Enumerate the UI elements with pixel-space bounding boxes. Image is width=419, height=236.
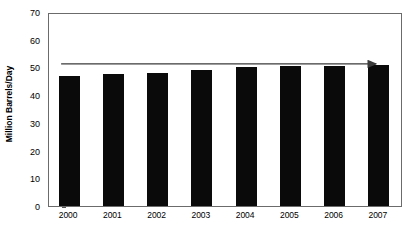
bar-2000 xyxy=(59,76,80,206)
y-tick-label-50: 50 xyxy=(30,64,40,73)
bar-2004 xyxy=(236,67,257,206)
x-tick-label-2002: 2002 xyxy=(147,210,166,220)
bar-2003 xyxy=(191,70,212,206)
y-tick-mark xyxy=(62,207,66,208)
y-axis-tick-labels: 010203040506070 xyxy=(18,0,44,236)
bar-2001 xyxy=(103,74,124,206)
y-axis-title-text: Million Barrels/Day xyxy=(4,65,14,142)
y-tick-label-30: 30 xyxy=(30,119,40,128)
x-tick-label-2001: 2001 xyxy=(103,210,122,220)
x-tick-label-2005: 2005 xyxy=(280,210,299,220)
x-tick-label-2000: 2000 xyxy=(59,210,78,220)
y-tick-label-10: 10 xyxy=(30,175,40,184)
bar-2006 xyxy=(324,66,345,206)
x-tick-label-2006: 2006 xyxy=(324,210,343,220)
y-tick-label-20: 20 xyxy=(30,147,40,156)
y-tick-label-60: 60 xyxy=(30,36,40,45)
y-tick-label-70: 70 xyxy=(30,9,40,18)
y-tick-label-40: 40 xyxy=(30,92,40,101)
plot-area xyxy=(48,13,402,207)
x-tick-label-2003: 2003 xyxy=(191,210,210,220)
y-axis-title: Million Barrels/Day xyxy=(0,0,18,207)
bar-2002 xyxy=(147,73,168,206)
x-tick-label-2007: 2007 xyxy=(368,210,387,220)
x-axis-tick-labels: 20002001200220032004200520062007 xyxy=(48,210,402,230)
x-tick-label-2004: 2004 xyxy=(236,210,255,220)
y-tick-label-0: 0 xyxy=(35,203,40,212)
bar-2007 xyxy=(368,65,389,206)
bar-2005 xyxy=(280,66,301,206)
bar-chart: Million Barrels/Day 010203040506070 2000… xyxy=(0,0,419,236)
